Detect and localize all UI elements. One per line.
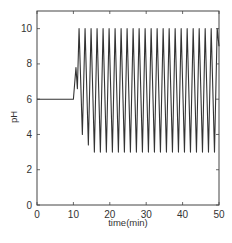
x-tick-label: 0 xyxy=(34,209,40,220)
x-tick-label: 10 xyxy=(68,209,80,220)
y-tick-label: 2 xyxy=(26,164,32,175)
y-tick-label: 6 xyxy=(26,94,32,105)
y-axis-label: pH xyxy=(8,111,19,123)
x-tick-label: 50 xyxy=(213,209,225,220)
ph-series-line xyxy=(37,29,219,152)
y-tick-label: 8 xyxy=(26,58,32,69)
y-tick-label: 10 xyxy=(21,23,33,34)
y-tick-label: 0 xyxy=(26,200,32,211)
x-axis-label: time(min) xyxy=(108,217,148,228)
x-tick-label: 40 xyxy=(177,209,189,220)
ph-time-chart: 01020304050 0246810 time(min) pH xyxy=(0,0,232,243)
y-tick-label: 4 xyxy=(26,129,32,140)
